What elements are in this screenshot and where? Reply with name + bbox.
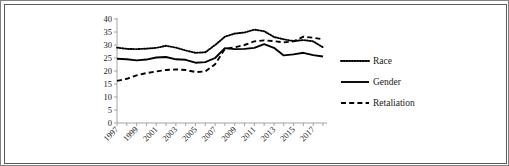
x-axis-tick-label: 2009 bbox=[219, 124, 238, 143]
legend-label-gender: Gender bbox=[373, 77, 402, 87]
y-axis-tick-label: 15 bbox=[104, 79, 113, 89]
x-axis-tick-label: 2005 bbox=[180, 124, 199, 143]
legend-label-retaliation: Retaliation bbox=[373, 98, 415, 108]
x-axis-tick-label: 2001 bbox=[141, 124, 160, 143]
figure-outer-border: 0510152025303540 19971999200120032005200… bbox=[0, 0, 509, 166]
x-axis-tick-label: 2007 bbox=[199, 124, 218, 143]
y-axis-tick-label: 30 bbox=[104, 40, 113, 50]
x-axis-tick-label: 2017 bbox=[298, 124, 317, 143]
line-chart: 0510152025303540 19971999200120032005200… bbox=[5, 5, 506, 163]
x-axis-tick-label: 2003 bbox=[160, 124, 179, 143]
series-lines bbox=[117, 30, 323, 81]
y-axis-tick-label: 5 bbox=[108, 105, 112, 115]
chart-legend: RaceGenderRetaliation bbox=[341, 56, 415, 108]
legend-label-race: Race bbox=[373, 56, 392, 66]
x-axis-tick-label: 2013 bbox=[258, 124, 277, 143]
y-axis-tick-label: 25 bbox=[104, 53, 113, 63]
y-axis-tick-label: 35 bbox=[104, 27, 113, 37]
y-axis-tick-label: 40 bbox=[104, 14, 113, 24]
x-axis: 1997199920012003200520072009201120132015… bbox=[101, 123, 327, 143]
figure-inner-border: 0510152025303540 19971999200120032005200… bbox=[4, 4, 507, 164]
y-axis-tick-label: 20 bbox=[104, 66, 113, 76]
x-axis-tick-label: 1999 bbox=[121, 124, 140, 143]
x-axis-tick-label: 1997 bbox=[101, 124, 120, 143]
y-axis: 0510152025303540 bbox=[104, 14, 118, 128]
series-line-gender bbox=[117, 44, 323, 62]
x-axis-tick-label: 2015 bbox=[278, 124, 297, 143]
x-axis-tick-label: 2011 bbox=[239, 124, 258, 143]
y-axis-tick-label: 10 bbox=[104, 92, 113, 102]
